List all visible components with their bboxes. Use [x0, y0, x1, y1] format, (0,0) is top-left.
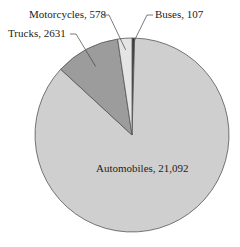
label-trucks: Trucks, 2631	[8, 27, 66, 39]
label-automobiles: Automobiles, 21,092	[96, 162, 189, 174]
label-motorcycles: Motorcycles, 578	[29, 8, 106, 20]
label-buses: Buses, 107	[155, 8, 204, 20]
pie-chart: Automobiles, 21,092 Trucks, 2631 Motorcy…	[0, 0, 240, 247]
